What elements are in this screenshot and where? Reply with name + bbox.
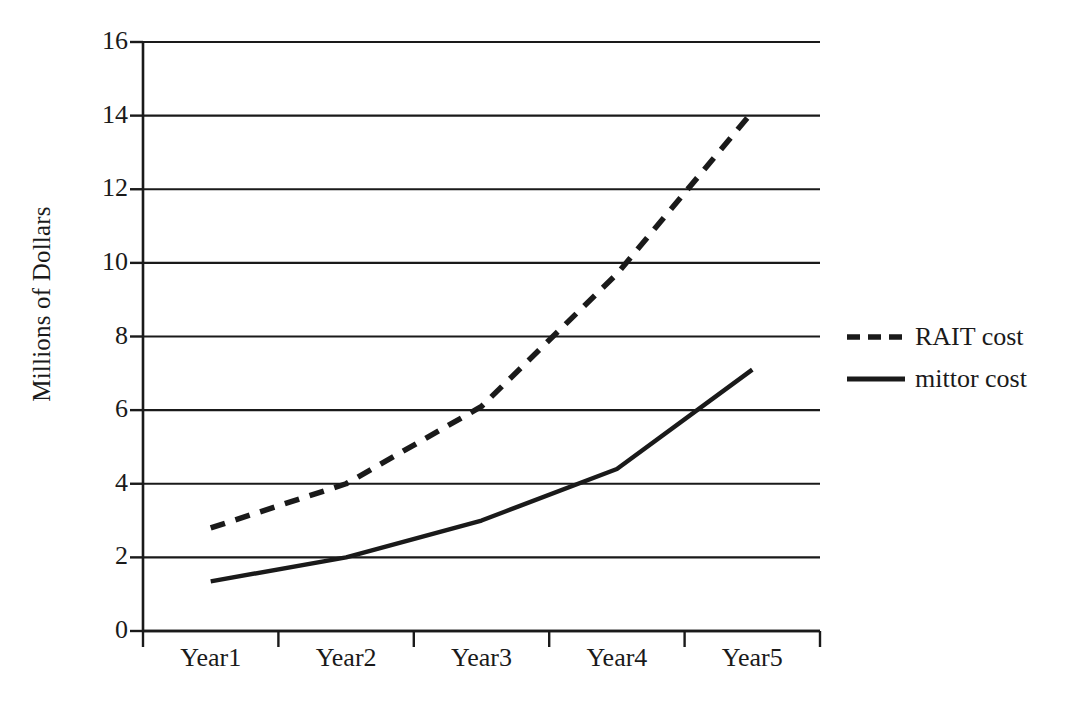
y-tick-label-10: 10	[68, 249, 128, 275]
y-tick-label-0: 0	[68, 617, 128, 643]
x-tick-label-year4: Year4	[549, 645, 684, 671]
legend-item-mittor-cost[interactable]: mittor cost	[845, 358, 1075, 400]
series-line-rait-cost	[211, 112, 753, 528]
legend-item-rait-cost[interactable]: RAIT cost	[845, 316, 1075, 358]
legend-swatch-solid-icon	[845, 369, 907, 389]
x-tick-label-year2: Year2	[278, 645, 413, 671]
y-tick-label-12: 12	[68, 175, 128, 201]
y-tick-label-2: 2	[68, 543, 128, 569]
x-tick-label-year5: Year5	[685, 645, 820, 671]
y-tick-label-14: 14	[68, 102, 128, 128]
x-tick-label-year3: Year3	[414, 645, 549, 671]
y-tick-label-4: 4	[68, 470, 128, 496]
x-tick-label-year1: Year1	[143, 645, 278, 671]
y-axis-tick-labels: 0246810121416	[28, 0, 128, 708]
chart-legend: RAIT costmittor cost	[845, 316, 1075, 400]
y-tick-label-16: 16	[68, 28, 128, 54]
series-line-mittor-cost	[211, 370, 753, 582]
line-chart-figure: Millions of Dollars 0246810121416 Year1Y…	[0, 0, 1084, 708]
y-tick-label-6: 6	[68, 396, 128, 422]
legend-label: RAIT cost	[915, 324, 1024, 350]
x-axis-tick-labels: Year1Year2Year3Year4Year5	[0, 645, 1084, 689]
y-axis-ticks	[130, 42, 143, 631]
legend-swatch-dashed-icon	[845, 327, 907, 347]
gridlines	[143, 42, 820, 631]
data-series-group	[211, 112, 753, 581]
y-tick-label-8: 8	[68, 323, 128, 349]
legend-label: mittor cost	[915, 366, 1027, 392]
